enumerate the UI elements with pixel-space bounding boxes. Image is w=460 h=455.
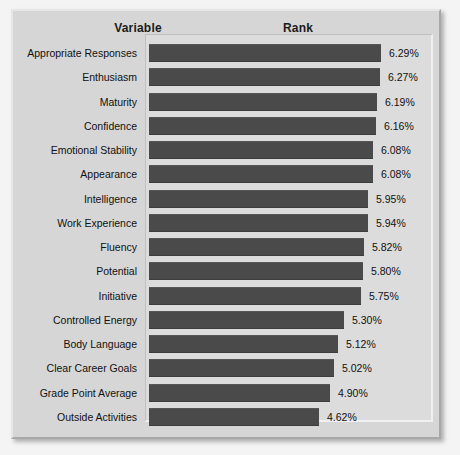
bar bbox=[149, 93, 377, 111]
bar bbox=[149, 408, 319, 426]
bar-row: Body Language5.12% bbox=[13, 335, 439, 353]
bar-value-label: 6.19% bbox=[385, 96, 415, 108]
bar-value-label: 6.08% bbox=[381, 144, 411, 156]
bar-value-label: 6.16% bbox=[384, 120, 414, 132]
bar bbox=[149, 262, 363, 280]
bar bbox=[149, 214, 368, 232]
category-label: Potential bbox=[13, 265, 137, 277]
bar-value-label: 5.82% bbox=[372, 241, 402, 253]
bar bbox=[149, 141, 373, 159]
bar-row: Initiative5.75% bbox=[13, 287, 439, 305]
bar bbox=[149, 311, 344, 329]
category-label: Appearance bbox=[13, 168, 137, 180]
bar bbox=[149, 287, 361, 305]
bar-value-label: 5.80% bbox=[371, 265, 401, 277]
category-label: Fluency bbox=[13, 241, 137, 253]
category-label: Clear Career Goals bbox=[13, 362, 137, 374]
bar-row: Outside Activities4.62% bbox=[13, 408, 439, 426]
bar bbox=[149, 190, 368, 208]
bar-value-label: 5.95% bbox=[376, 193, 406, 205]
category-label: Appropriate Responses bbox=[13, 47, 137, 59]
bar-row: Controlled Energy5.30% bbox=[13, 311, 439, 329]
category-label: Confidence bbox=[13, 120, 137, 132]
bar-value-label: 5.94% bbox=[376, 217, 406, 229]
category-label: Intelligence bbox=[13, 193, 137, 205]
bar-row: Fluency5.82% bbox=[13, 238, 439, 256]
bar-row: Grade Point Average4.90% bbox=[13, 384, 439, 402]
bar bbox=[149, 335, 338, 353]
category-label: Maturity bbox=[13, 96, 137, 108]
bar-value-label: 5.02% bbox=[342, 362, 372, 374]
bar-value-label: 6.27% bbox=[388, 71, 418, 83]
category-label: Grade Point Average bbox=[13, 387, 137, 399]
bar-row: Confidence6.16% bbox=[13, 117, 439, 135]
bar-row: Appearance6.08% bbox=[13, 165, 439, 183]
bar-row: Appropriate Responses6.29% bbox=[13, 44, 439, 62]
chart-page: Variable Rank Appropriate Responses6.29%… bbox=[0, 0, 460, 455]
category-label: Work Experience bbox=[13, 217, 137, 229]
bar-value-label: 6.08% bbox=[381, 168, 411, 180]
category-label: Controlled Energy bbox=[13, 314, 137, 326]
bar-row: Clear Career Goals5.02% bbox=[13, 359, 439, 377]
bar bbox=[149, 359, 334, 377]
category-label: Initiative bbox=[13, 290, 137, 302]
bar-value-label: 4.62% bbox=[327, 411, 357, 423]
bar bbox=[149, 238, 364, 256]
bar bbox=[149, 44, 381, 62]
category-label: Emotional Stability bbox=[13, 144, 137, 156]
bar-value-label: 5.75% bbox=[369, 290, 399, 302]
bar-value-label: 5.30% bbox=[352, 314, 382, 326]
bar-row: Maturity6.19% bbox=[13, 93, 439, 111]
bar bbox=[149, 68, 380, 86]
bar-row: Enthusiasm6.27% bbox=[13, 68, 439, 86]
bar-value-label: 5.12% bbox=[346, 338, 376, 350]
category-label: Body Language bbox=[13, 338, 137, 350]
bar-value-label: 4.90% bbox=[338, 387, 368, 399]
bar bbox=[149, 165, 373, 183]
category-label: Outside Activities bbox=[13, 411, 137, 423]
bar bbox=[149, 117, 376, 135]
bar-row: Work Experience5.94% bbox=[13, 214, 439, 232]
bar-row: Intelligence5.95% bbox=[13, 190, 439, 208]
bar-value-label: 6.29% bbox=[389, 47, 419, 59]
bar-row: Emotional Stability6.08% bbox=[13, 141, 439, 159]
bar-row: Potential5.80% bbox=[13, 262, 439, 280]
bar bbox=[149, 384, 330, 402]
bar-rows: Appropriate Responses6.29%Enthusiasm6.27… bbox=[13, 11, 439, 437]
category-label: Enthusiasm bbox=[13, 71, 137, 83]
chart-panel: Variable Rank Appropriate Responses6.29%… bbox=[11, 9, 441, 439]
